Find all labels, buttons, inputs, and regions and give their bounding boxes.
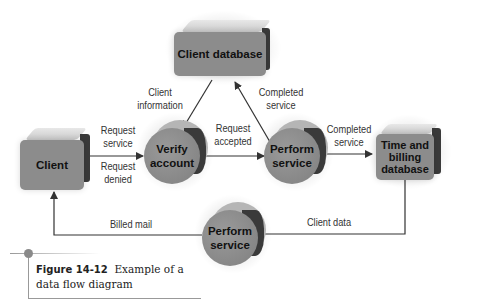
flow-label-completed-service-right: Completedservice (322, 123, 377, 149)
node-perform-service-1: Performservice (260, 118, 330, 188)
figure-number: Figure 14-12 (36, 264, 108, 275)
node-label: Performservice (208, 224, 252, 252)
flow-label-request-service: Requestservice (93, 124, 142, 150)
flow-label-completed-service-up: Completedservice (254, 86, 309, 112)
node-label: Verifyaccount (150, 142, 194, 170)
node-label: Performservice (270, 142, 314, 170)
caption-bullet (24, 249, 33, 258)
node-label: Client database (178, 48, 263, 61)
caption-text-2: data flow diagram (36, 278, 133, 290)
node-perform-service-2: Performservice (198, 200, 268, 270)
node-client: Client (18, 126, 92, 192)
node-verify-account: Verifyaccount (140, 118, 210, 188)
caption-text-1: Example of a (114, 263, 183, 275)
figure-caption: Figure 14-12 Example of a data flow diag… (28, 258, 201, 299)
flow-label-request-denied: Requestdenied (93, 160, 142, 186)
node-client-database: Client database (172, 18, 274, 80)
flow-label-billed-mail: Billed mail (100, 218, 162, 231)
node-label: Client (36, 159, 68, 172)
flow-label-client-data: Client data (298, 216, 360, 229)
flow-label-client-information: Clientinformation (134, 86, 187, 112)
flow-label-request-accepted: Requestaccepted (207, 122, 258, 148)
node-time-billing-database: Time andbillingdatabase (374, 122, 444, 182)
node-label: Time andbillingdatabase (381, 139, 429, 175)
